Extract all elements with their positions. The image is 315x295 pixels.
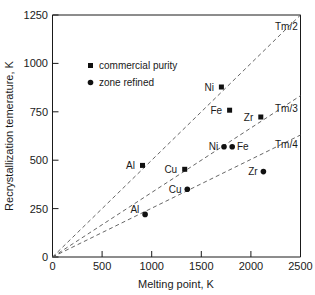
reference-line-tm4 xyxy=(53,135,301,257)
chart-canvas: 0 250 500 750 1000 1250 0 500 1000 1500 … xyxy=(0,0,315,295)
recrystallization-temperature-chart: 0 250 500 750 1000 1250 0 500 1000 1500 … xyxy=(0,0,315,295)
data-point-label: Ni xyxy=(204,82,213,93)
y-tick-label-250: 250 xyxy=(30,203,48,215)
y-tick-label-1250: 1250 xyxy=(24,9,48,21)
y-tick-label-750: 750 xyxy=(30,106,48,118)
chart-legend: commercial purity zone refined xyxy=(88,60,178,88)
data-point-label: Zr xyxy=(244,112,254,123)
data-point-label: Al xyxy=(130,204,139,215)
y-tick-label-0: 0 xyxy=(42,251,48,263)
data-point-label: Fe xyxy=(237,141,249,152)
reference-line-labels: Tm/2 Tm/3 Tm/4 xyxy=(275,21,298,150)
y-tick-label-500: 500 xyxy=(30,154,48,166)
data-point-marker xyxy=(219,85,224,90)
data-point-marker xyxy=(142,212,148,218)
data-point-marker xyxy=(258,115,263,120)
series-commercial-purity: Al Cu Ni Fe Zr xyxy=(126,82,263,175)
legend-label-zone-refined: zone refined xyxy=(99,77,154,88)
data-point-marker xyxy=(185,186,191,192)
data-point-label: Cu xyxy=(164,164,177,175)
reference-line-label-tm2: Tm/2 xyxy=(275,21,298,32)
x-tick-label-2500: 2500 xyxy=(288,260,312,272)
x-tick-label-500: 500 xyxy=(93,260,111,272)
data-point-marker xyxy=(229,144,235,150)
data-point-label: Zr xyxy=(248,166,258,177)
x-tick-label-1500: 1500 xyxy=(189,260,213,272)
x-axis-title: Melting point, K xyxy=(138,278,214,290)
x-tick-label-1000: 1000 xyxy=(139,260,163,272)
x-axis-ticks xyxy=(53,251,301,257)
reference-lines xyxy=(53,15,301,257)
data-point-marker xyxy=(140,163,145,168)
reference-line-tm3 xyxy=(53,96,301,257)
reference-line-label-tm4: Tm/4 xyxy=(275,139,298,150)
legend-marker-zone-refined xyxy=(88,80,94,86)
y-axis-title: Recrystallization temerature, K xyxy=(3,60,15,210)
data-point-marker xyxy=(221,144,227,150)
y-axis-tick-labels: 0 250 500 750 1000 1250 xyxy=(24,9,48,263)
y-axis-ticks xyxy=(53,15,59,257)
reference-line-label-tm3: Tm/3 xyxy=(275,103,298,114)
series-zone-refined: Al Cu Ni Fe Zr xyxy=(130,141,266,217)
data-point-marker xyxy=(227,108,232,113)
data-point-label: Cu xyxy=(169,184,182,195)
y-tick-label-1000: 1000 xyxy=(24,57,48,69)
data-point-marker xyxy=(261,169,267,175)
reference-line-tm2 xyxy=(53,15,301,257)
x-axis-tick-labels: 0 500 1000 1500 2000 2500 xyxy=(49,260,312,272)
x-tick-label-0: 0 xyxy=(49,260,55,272)
data-point-label: Fe xyxy=(210,105,222,116)
x-tick-label-2000: 2000 xyxy=(239,260,263,272)
legend-marker-commercial-purity xyxy=(88,63,93,68)
data-point-marker xyxy=(182,167,187,172)
data-point-label: Ni xyxy=(209,141,218,152)
legend-label-commercial-purity: commercial purity xyxy=(99,60,177,71)
data-point-label: Al xyxy=(126,160,135,171)
